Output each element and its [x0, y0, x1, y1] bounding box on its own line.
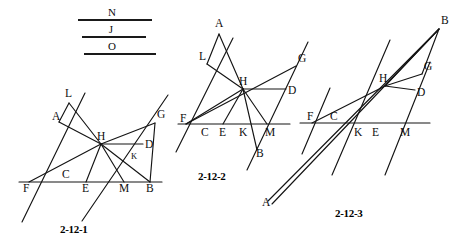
fig-2-12-2-point-label-f: F [180, 112, 186, 124]
fig-2-12-2-point-label-l: L [199, 50, 206, 62]
fig-2-12-3-point-label-f: F [307, 110, 313, 122]
fig-2-12-3-point-label-m: M [400, 126, 410, 138]
fig-2-12-1-seg-G-B [150, 123, 155, 182]
fig-2-12-1-point-label-m: M [119, 182, 129, 194]
fig-2-12-1-point-label-l: L [65, 87, 72, 99]
geometry-figures-svg: NJO LAHGDKCFEMB2-12-1ALHGDFCEKMB2-12-2BG… [0, 0, 463, 244]
figures-group: LAHGDKCFEMB2-12-1ALHGDFCEKMB2-12-2BGHDFC… [19, 14, 449, 235]
fig-2-12-3-point-label-c: C [330, 110, 338, 122]
fig-2-12-2-point-label-a: A [215, 17, 224, 29]
legend-label-o: O [108, 40, 116, 52]
fig-2-12-2-caption: 2-12-2 [198, 170, 226, 182]
fig-2-12-1-caption: 2-12-1 [60, 223, 88, 235]
fig-2-12-3-point-label-a: A [262, 196, 271, 208]
fig-2-12-1-point-label-h: H [97, 130, 105, 142]
fig-2-12-1-seg-H-B [101, 144, 150, 182]
fig-2-12-2-point-label-b: B [256, 147, 264, 159]
fig-2-12-2: ALHGDFCEKMB2-12-2 [176, 17, 308, 182]
fig-2-12-3-point-label-h: H [379, 72, 387, 84]
fig-2-12-3-point-label-d: D [417, 86, 425, 98]
fig-2-12-1-point-label-e: E [82, 182, 89, 194]
fig-2-12-1-point-label-d: D [145, 138, 153, 150]
diagram-canvas: NJO LAHGDKCFEMB2-12-1ALHGDFCEKMB2-12-2BG… [0, 0, 463, 244]
fig-2-12-1-seg-L-A [59, 103, 69, 122]
fig-2-12-1-point-label-a: A [52, 110, 61, 122]
fig-2-12-3-point-label-g: G [424, 60, 432, 72]
fig-2-12-2-point-label-h: H [239, 75, 247, 87]
fig-2-12-1-point-label-g: G [157, 108, 165, 120]
fig-2-12-3-point-label-b: B [441, 14, 449, 26]
fig-2-12-1-point-label-f: F [23, 182, 29, 194]
fig-2-12-3-caption: 2-12-3 [335, 207, 363, 219]
fig-2-12-2-seg-H-E [223, 89, 243, 124]
fig-2-12-2-point-label-k: K [239, 126, 248, 138]
fig-2-12-2-seg-H-B [243, 89, 257, 150]
fig-2-12-3-point-label-k: K [354, 126, 363, 138]
fig-2-12-2-point-label-c: C [201, 126, 209, 138]
legend-label-n: N [108, 6, 116, 18]
fig-2-12-2-point-label-d: D [288, 84, 296, 96]
fig-2-12-2-point-label-g: G [298, 52, 306, 64]
fig-2-12-3-seg-A-B [268, 29, 439, 201]
fig-2-12-3: BGHDFCKEMA2-12-3 [262, 14, 449, 219]
fig-2-12-3-seg-H-D [385, 86, 415, 90]
fig-2-12-3-point-label-e: E [372, 126, 379, 138]
fig-2-12-1-point-label-c: C [62, 168, 70, 180]
legend-label-j: J [109, 23, 114, 35]
reference-lines-legend: NJO [78, 6, 156, 54]
fig-2-12-1-point-label-k: K [131, 151, 138, 161]
fig-2-12-2-point-label-e: E [219, 126, 226, 138]
fig-2-12-2-point-label-m: M [265, 126, 275, 138]
fig-2-12-1: LAHGDKCFEMB2-12-1 [19, 87, 168, 235]
fig-2-12-2-seg-A-L [207, 34, 219, 64]
fig-2-12-1-point-label-b: B [146, 182, 154, 194]
fig-2-12-2-seg-F-H [186, 89, 243, 124]
fig-2-12-1-seg-H-E [86, 144, 101, 182]
